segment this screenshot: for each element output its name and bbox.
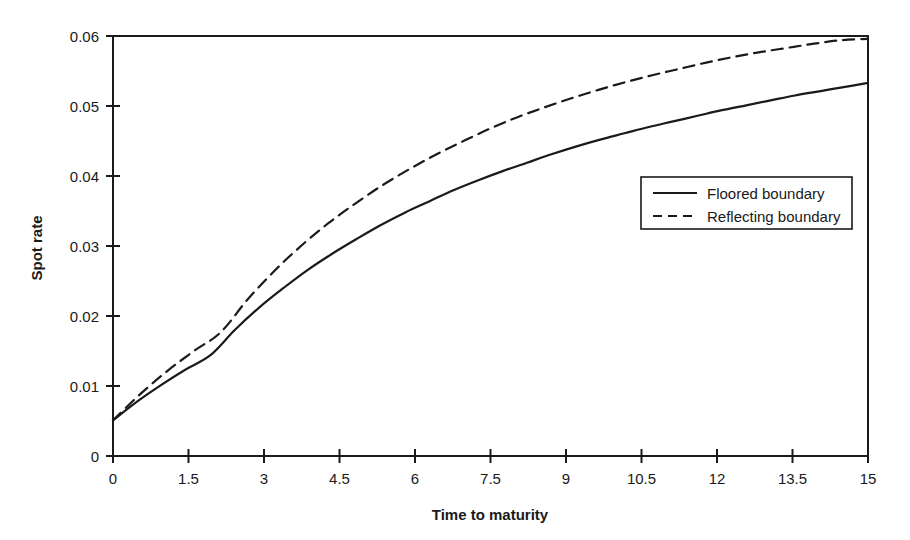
x-tick-label: 3 xyxy=(260,470,268,487)
y-tick-label: 0.02 xyxy=(70,308,99,325)
x-tick-label: 0 xyxy=(109,470,117,487)
y-tick-label: 0.06 xyxy=(70,28,99,45)
y-tick-label: 0 xyxy=(91,448,99,465)
x-tick-label: 7.5 xyxy=(480,470,501,487)
x-tick-label: 6 xyxy=(411,470,419,487)
axis-spines xyxy=(113,36,868,456)
y-tick-label: 0.04 xyxy=(70,168,99,185)
legend-label-reflecting-boundary: Reflecting boundary xyxy=(707,208,841,225)
chart-tick-labels: 00.010.020.030.040.050.0601.534.567.5910… xyxy=(70,28,877,488)
y-tick-label: 0.01 xyxy=(70,378,99,395)
x-tick-label: 10.5 xyxy=(627,470,656,487)
chart-tick-marks xyxy=(106,36,868,463)
chart-axes xyxy=(113,36,868,456)
x-tick-label: 13.5 xyxy=(778,470,807,487)
spot-rate-line-chart: 00.010.020.030.040.050.0601.534.567.5910… xyxy=(0,0,910,540)
y-tick-label: 0.05 xyxy=(70,98,99,115)
plot-frame xyxy=(113,36,868,456)
y-tick-label: 0.03 xyxy=(70,238,99,255)
legend-label-floored-boundary: Floored boundary xyxy=(707,185,825,202)
x-tick-label: 12 xyxy=(709,470,726,487)
series-floored-boundary xyxy=(113,83,868,420)
x-axis-title: Time to maturity xyxy=(432,506,549,523)
chart-legend: Floored boundary Reflecting boundary xyxy=(641,177,852,229)
x-tick-label: 15 xyxy=(860,470,877,487)
x-tick-label: 1.5 xyxy=(178,470,199,487)
x-tick-label: 9 xyxy=(562,470,570,487)
chart-figure: 00.010.020.030.040.050.0601.534.567.5910… xyxy=(0,0,910,540)
x-tick-label: 4.5 xyxy=(329,470,350,487)
y-axis-title: Spot rate xyxy=(28,215,45,280)
